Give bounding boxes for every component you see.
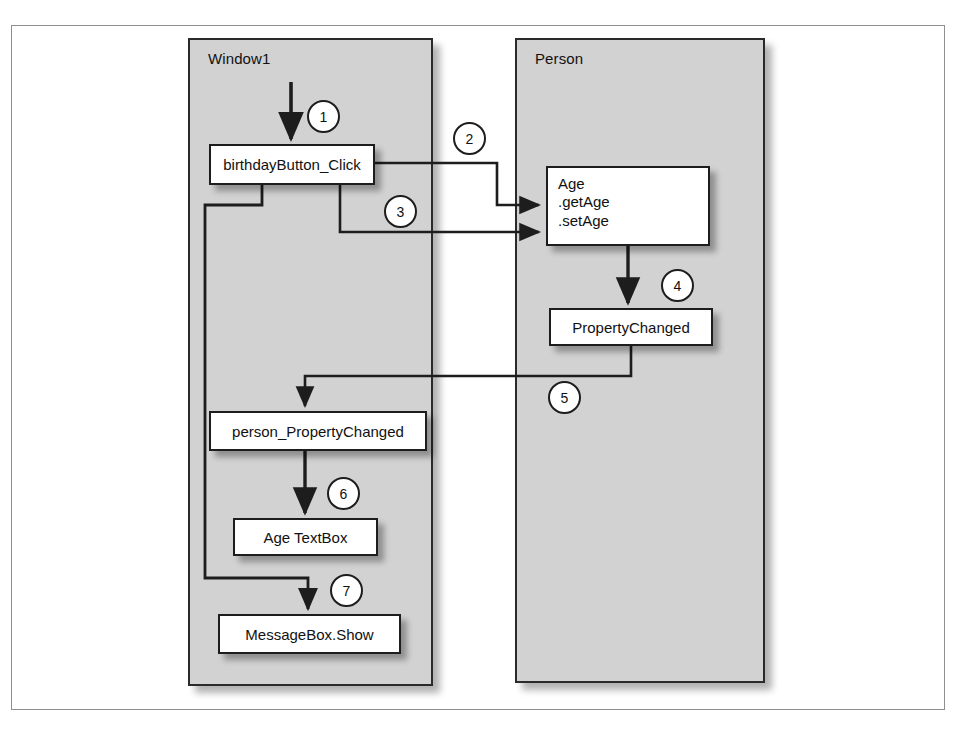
node-property-changed[interactable]: PropertyChanged xyxy=(549,308,713,346)
node-age-textbox[interactable]: Age TextBox xyxy=(233,518,378,556)
step-marker-7: 7 xyxy=(330,574,363,607)
node-age-property[interactable]: Age .getAge .setAge xyxy=(546,166,710,246)
node-birthday-button-click[interactable]: birthdayButton_Click xyxy=(209,144,375,185)
step-marker-3-label: 3 xyxy=(397,204,405,220)
node-messagebox-show-label: MessageBox.Show xyxy=(245,626,373,643)
node-age-property-line-3: .setAge xyxy=(558,212,708,230)
node-birthday-button-click-label: birthdayButton_Click xyxy=(223,156,361,173)
node-messagebox-show[interactable]: MessageBox.Show xyxy=(218,614,401,654)
step-marker-4: 4 xyxy=(661,269,694,302)
connector-step-5 xyxy=(305,346,631,406)
node-property-changed-label: PropertyChanged xyxy=(572,319,690,336)
step-marker-7-label: 7 xyxy=(343,583,351,599)
step-marker-3: 3 xyxy=(384,195,417,228)
node-person-property-changed[interactable]: person_PropertyChanged xyxy=(209,411,427,451)
step-marker-5: 5 xyxy=(548,381,581,414)
node-person-property-changed-label: person_PropertyChanged xyxy=(232,423,404,440)
step-marker-1: 1 xyxy=(307,100,340,133)
step-marker-2-label: 2 xyxy=(466,131,474,147)
step-marker-1-label: 1 xyxy=(320,109,328,125)
step-marker-5-label: 5 xyxy=(561,390,569,406)
node-age-property-line-1: Age xyxy=(558,175,708,193)
step-marker-6-label: 6 xyxy=(340,486,348,502)
step-marker-4-label: 4 xyxy=(674,278,682,294)
connector-step-3 xyxy=(340,185,539,232)
step-marker-6: 6 xyxy=(327,477,360,510)
node-age-textbox-label: Age TextBox xyxy=(264,529,348,546)
connector-layer xyxy=(0,0,958,730)
node-age-property-line-2: .getAge xyxy=(558,193,708,211)
diagram-page: Window1 Person birthdayButton_Click Age xyxy=(0,0,958,730)
step-marker-2: 2 xyxy=(453,122,486,155)
